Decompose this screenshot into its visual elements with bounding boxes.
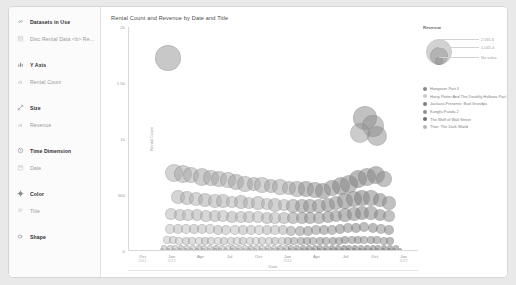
bubble-point[interactable]: [201, 248, 205, 251]
clock-icon: [16, 146, 25, 155]
bubble-point[interactable]: [178, 248, 182, 251]
bubble-series[interactable]: [129, 27, 418, 250]
bubble-point[interactable]: [384, 225, 394, 235]
bubble-point[interactable]: [253, 248, 257, 251]
bubble-point[interactable]: [300, 248, 304, 251]
x-axis-tick: Apr: [197, 254, 204, 259]
sidebar-item-disc-rental-data[interactable]: Disc Rental Data <b> Re...: [9, 30, 100, 47]
plot-area[interactable]: [128, 27, 418, 251]
size-legend-value: 2,581.6: [481, 37, 494, 42]
color-legend-item[interactable]: The Wolf of Wall Street: [423, 115, 508, 123]
bubble-point[interactable]: [189, 248, 193, 251]
size-legend-leader: [439, 47, 479, 48]
color-legend-item[interactable]: Harry Potter And The Deathly Hallows Par…: [423, 93, 508, 101]
bubble-point[interactable]: [387, 248, 391, 251]
bubble-point[interactable]: [386, 237, 394, 245]
x-axis-tick: Oct2012: [139, 254, 147, 263]
sidebar-item-date[interactable]: Date: [9, 159, 100, 176]
bubble-point[interactable]: [294, 248, 298, 251]
bubble-point[interactable]: [305, 248, 309, 251]
plot-frame: Rental Count Date 2k1.5k1k5000Oct2012Jan…: [128, 27, 418, 251]
bubble-point[interactable]: [383, 210, 395, 222]
bubble-point[interactable]: [329, 248, 333, 251]
x-tick-month: Jul: [343, 254, 349, 259]
bubble-point[interactable]: [282, 248, 286, 251]
size-legend-value: No value: [481, 55, 497, 60]
sidebar-item-size[interactable]: Size: [9, 99, 100, 116]
bubble-point[interactable]: [381, 248, 385, 251]
x-axis-rule: [128, 270, 418, 271]
sidebar-item-color[interactable]: Color: [9, 185, 100, 202]
sidebar-item-shape[interactable]: Shape: [9, 228, 100, 245]
legend-swatch-icon: [423, 94, 427, 98]
bubble-point[interactable]: [236, 248, 240, 251]
sidebar-item-y-axis[interactable]: Y Axis: [9, 56, 100, 73]
bubble-point[interactable]: [323, 248, 327, 251]
color-legend-item[interactable]: Thor: The Dark World: [423, 123, 508, 131]
x-axis-tick: Apr: [313, 254, 320, 259]
bubble-point[interactable]: [213, 248, 217, 251]
bubble-point[interactable]: [184, 248, 188, 251]
x-tick-month: Jul: [227, 254, 233, 259]
bubble-point[interactable]: [218, 248, 222, 251]
x-axis-tick: Jan2013: [168, 254, 176, 263]
analytics-app-window: Datasets in UseDisc Rental Data <b> Re..…: [8, 6, 508, 278]
bubble-point[interactable]: [317, 248, 321, 251]
bubble-point[interactable]: [340, 248, 344, 251]
sidebar-item-label: Rental Count: [30, 79, 61, 85]
bubble-point[interactable]: [195, 248, 199, 251]
size-legend-title: Revenue: [423, 25, 508, 30]
bubble-point[interactable]: [166, 248, 170, 251]
bubble-point[interactable]: [382, 196, 396, 210]
sidebar-item-title[interactable]: Title: [9, 202, 100, 219]
color-legend-item[interactable]: Kungfu Panda 2: [423, 108, 508, 116]
bubble-point[interactable]: [398, 248, 402, 251]
bubble-point[interactable]: [172, 248, 176, 251]
y-axis-tick: 2k: [120, 25, 125, 30]
sidebar-item-rental-count[interactable]: Rental Count: [9, 73, 100, 90]
bubble-point[interactable]: [346, 248, 350, 251]
bubble-point[interactable]: [288, 248, 292, 251]
x-tick-month: Apr: [197, 254, 204, 259]
metric-icon: [16, 120, 25, 129]
bubble-point[interactable]: [271, 248, 275, 251]
legend-swatch-icon: [423, 117, 427, 121]
bubble-point[interactable]: [363, 248, 367, 251]
sidebar-item-time-dimension[interactable]: Time Dimension: [9, 142, 100, 159]
bubble-point[interactable]: [358, 248, 362, 251]
chart-panel: Rental Count and Revenue by Date and Tit…: [101, 7, 507, 277]
bubble-point[interactable]: [375, 248, 379, 251]
color-legend-item[interactable]: Jackass Presents: Bad Grandpa: [423, 100, 508, 108]
x-axis-tick: Oct: [255, 254, 262, 259]
x-axis-tick: Jan2015: [400, 254, 408, 263]
bubble-point[interactable]: [367, 126, 387, 146]
size-legend-bubble: [435, 57, 443, 65]
bubble-point[interactable]: [242, 248, 246, 251]
bubble-point[interactable]: [230, 248, 234, 251]
bubble-point[interactable]: [155, 45, 181, 71]
size-icon: [16, 103, 25, 112]
bubble-point[interactable]: [352, 248, 356, 251]
bubble-point[interactable]: [376, 171, 392, 187]
sidebar-spacer: [9, 133, 100, 142]
sidebar-item-revenue[interactable]: Revenue: [9, 116, 100, 133]
bubble-point[interactable]: [207, 248, 211, 251]
bubble-point[interactable]: [334, 248, 338, 251]
legend-swatch-icon: [423, 102, 427, 106]
bubble-point[interactable]: [369, 248, 373, 251]
x-tick-month: Oct: [371, 254, 378, 259]
bubble-point[interactable]: [311, 248, 315, 251]
bubble-point[interactable]: [247, 248, 251, 251]
y-axis-tick: 500: [118, 193, 125, 198]
color-legend[interactable]: Hangover Part IIHarry Potter And The Dea…: [423, 85, 508, 131]
y-axis-tick: 1k: [120, 137, 125, 142]
bubble-point[interactable]: [259, 248, 263, 251]
bubble-point[interactable]: [392, 248, 396, 251]
bubble-point[interactable]: [160, 248, 164, 251]
bubble-point[interactable]: [276, 248, 280, 251]
bubble-point[interactable]: [265, 248, 269, 251]
color-legend-item[interactable]: Hangover Part II: [423, 85, 508, 93]
sidebar-item-datasets-in-use[interactable]: Datasets in Use: [9, 13, 100, 30]
size-legend-value: 1,045.4: [481, 45, 494, 50]
bubble-point[interactable]: [224, 248, 228, 251]
